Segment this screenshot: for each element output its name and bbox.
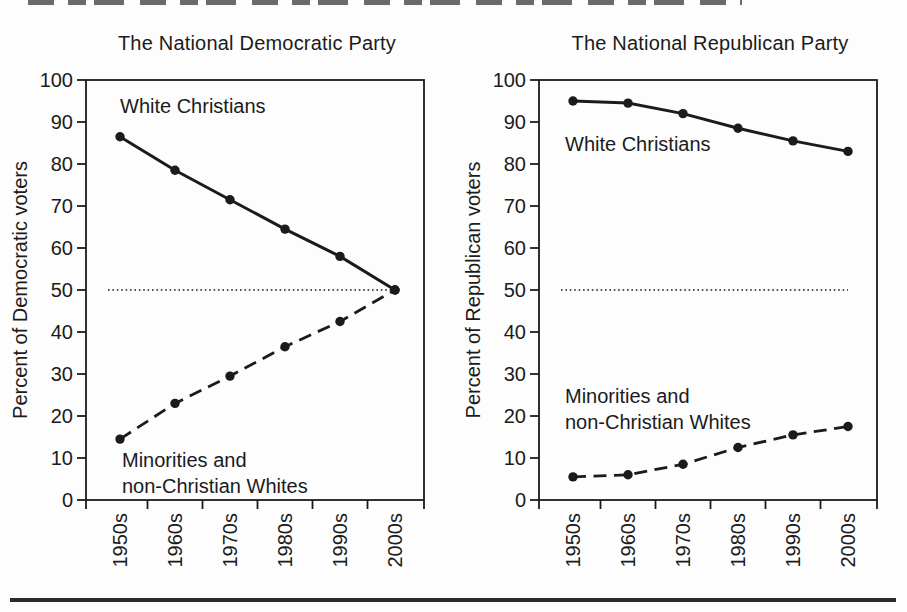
y-axis-label: Percent of Republican voters — [462, 162, 484, 419]
white-christians-label: White Christians — [120, 95, 266, 117]
y-tick-label: 100 — [493, 69, 526, 91]
x-category-label: 1950s — [562, 513, 584, 568]
republican-party-chart: The National Republican Party Percent of… — [453, 20, 907, 590]
y-tick-label: 20 — [51, 405, 73, 427]
minorities-and-non-christian-whites-label: non-Christian Whites — [122, 475, 308, 497]
chart-title: The National Democratic Party — [118, 32, 396, 54]
minorities-and-non-christian-whites-point — [390, 285, 399, 294]
y-tick-label: 40 — [51, 321, 73, 343]
x-category-label: 1990s — [782, 513, 804, 568]
minorities-and-non-christian-whites-point — [115, 434, 124, 443]
minorities-and-non-christian-whites-point — [170, 399, 179, 408]
minorities-and-non-christian-whites-point — [568, 472, 577, 481]
figure-page: The National Democratic Party Percent of… — [0, 0, 907, 612]
y-tick-label: 40 — [504, 321, 526, 343]
y-tick-label: 100 — [40, 69, 73, 91]
y-tick-label: 60 — [51, 237, 73, 259]
y-tick-label: 90 — [51, 111, 73, 133]
y-tick-label: 70 — [504, 195, 526, 217]
x-category-label: 1950s — [109, 513, 131, 568]
white-christians-point — [843, 147, 852, 156]
chart-title: The National Republican Party — [571, 32, 848, 54]
y-tick-label: 30 — [51, 363, 73, 385]
white-christians-point — [115, 132, 124, 141]
minorities-and-non-christian-whites-label: non-Christian Whites — [565, 411, 751, 433]
y-tick-label: 70 — [51, 195, 73, 217]
y-tick-label: 50 — [504, 279, 526, 301]
minorities-and-non-christian-whites-point — [788, 430, 797, 439]
white-christians-point — [170, 166, 179, 175]
minorities-and-non-christian-whites-point — [280, 342, 289, 351]
y-tick-label: 0 — [62, 489, 73, 511]
minorities-and-non-christian-whites-point — [623, 470, 632, 479]
y-tick-label: 80 — [504, 153, 526, 175]
y-tick-label: 10 — [504, 447, 526, 469]
x-category-label: 1980s — [727, 513, 749, 568]
minorities-and-non-christian-whites-label: Minorities and — [122, 449, 247, 471]
white-christians-point — [568, 96, 577, 105]
x-category-label: 1960s — [617, 513, 639, 568]
x-category-label: 1970s — [672, 513, 694, 568]
white-christians-label: White Christians — [565, 133, 711, 155]
y-axis-label: Percent of Democratic voters — [9, 161, 31, 419]
x-category-label: 1980s — [274, 513, 296, 568]
minorities-and-non-christian-whites-point — [733, 443, 742, 452]
democratic-party-chart: The National Democratic Party Percent of… — [0, 20, 454, 590]
x-category-label: 2000s — [384, 513, 406, 568]
white-christians-point — [788, 136, 797, 145]
white-christians-point — [678, 109, 687, 118]
y-tick-label: 90 — [504, 111, 526, 133]
plot-area: 01020304050607080901001950s1960s1970s198… — [40, 69, 424, 568]
y-tick-label: 20 — [504, 405, 526, 427]
white-christians-point — [623, 98, 632, 107]
minorities-and-non-christian-whites-point — [335, 317, 344, 326]
y-tick-label: 50 — [51, 279, 73, 301]
x-category-label: 1990s — [329, 513, 351, 568]
white-christians-point — [280, 224, 289, 233]
cropped-text-fragments — [28, 0, 742, 5]
y-tick-label: 80 — [51, 153, 73, 175]
x-category-label: 2000s — [837, 513, 859, 568]
white-christians-point — [335, 252, 344, 261]
bottom-rule — [10, 598, 896, 602]
plot-area: 01020304050607080901001950s1960s1970s198… — [493, 69, 877, 568]
minorities-and-non-christian-whites-label: Minorities and — [565, 385, 690, 407]
x-category-label: 1960s — [164, 513, 186, 568]
y-tick-label: 0 — [515, 489, 526, 511]
y-tick-label: 60 — [504, 237, 526, 259]
x-category-label: 1970s — [219, 513, 241, 568]
minorities-and-non-christian-whites-point — [843, 422, 852, 431]
minorities-and-non-christian-whites-line — [120, 290, 395, 439]
minorities-and-non-christian-whites-point — [225, 371, 234, 380]
y-tick-label: 10 — [51, 447, 73, 469]
white-christians-point — [733, 124, 742, 133]
minorities-and-non-christian-whites-line — [573, 427, 848, 477]
white-christians-point — [225, 195, 234, 204]
y-tick-label: 30 — [504, 363, 526, 385]
white-christians-line — [120, 137, 395, 290]
minorities-and-non-christian-whites-point — [678, 460, 687, 469]
